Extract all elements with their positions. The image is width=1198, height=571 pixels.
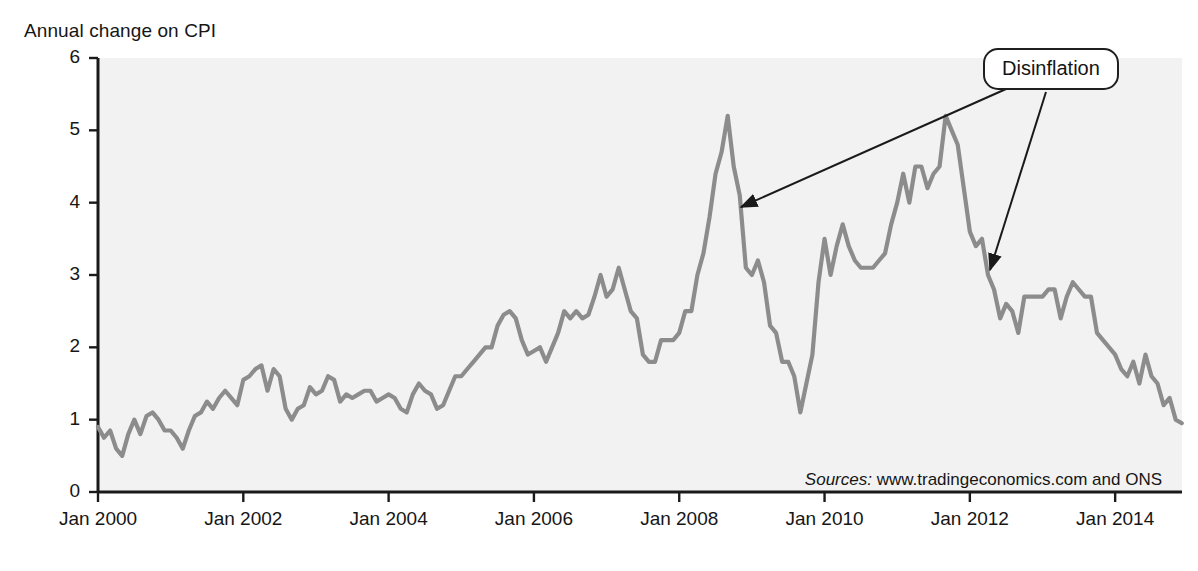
x-tick-label: Jan 2010 — [785, 508, 863, 530]
x-tick-label: Jan 2004 — [350, 508, 428, 530]
source-note: Sources: www.tradingeconomics.com and ON… — [805, 470, 1162, 490]
disinflation-callout-label: Disinflation — [1002, 57, 1100, 79]
y-tick-label: 2 — [46, 335, 80, 357]
cpi-chart-figure: Annual change on CPI 6543210 Jan 2000Jan… — [0, 0, 1198, 571]
source-prefix: Sources: — [805, 470, 872, 489]
x-tick-label: Jan 2002 — [204, 508, 282, 530]
x-tick-label: Jan 2000 — [59, 508, 137, 530]
x-tick-label: Jan 2014 — [1076, 508, 1154, 530]
y-tick-label: 6 — [46, 46, 80, 68]
x-tick-label: Jan 2012 — [931, 508, 1009, 530]
y-tick-label: 5 — [46, 118, 80, 140]
x-tick-label: Jan 2006 — [495, 508, 573, 530]
plot-background — [98, 58, 1182, 492]
y-axis-title: Annual change on CPI — [24, 20, 216, 42]
y-tick-label: 4 — [46, 191, 80, 213]
y-tick-label: 0 — [46, 480, 80, 502]
y-tick-label: 1 — [46, 408, 80, 430]
source-text: www.tradingeconomics.com and ONS — [872, 470, 1162, 489]
disinflation-callout: Disinflation — [983, 48, 1119, 90]
y-tick-label: 3 — [46, 263, 80, 285]
x-tick-label: Jan 2008 — [640, 508, 718, 530]
